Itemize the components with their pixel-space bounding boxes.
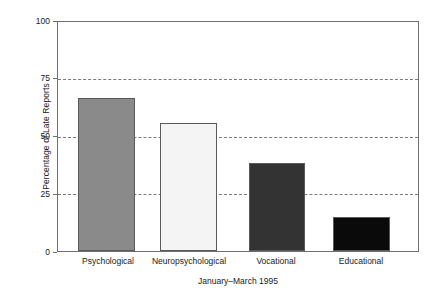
y-tick-label-0: 0 [28,248,50,257]
y-tick-mark-0 [53,252,57,253]
gridline-75 [58,79,418,80]
bar-educational[interactable] [333,217,390,251]
bar-vocational[interactable] [249,163,305,251]
y-tick-label-75: 75 [28,74,50,83]
bar-neuropsychological[interactable] [160,123,217,251]
y-tick-label-50: 50 [28,132,50,141]
category-label-educational: Educational [301,256,421,266]
y-tick-label-100: 100 [28,17,50,26]
bar-chart: Percentage of Late Reports 100 75 50 25 … [0,0,435,304]
bar-psychological[interactable] [78,98,135,251]
y-tick-label-25: 25 [28,190,50,199]
plot-area [57,21,419,252]
x-axis-title: January–March 1995 [57,276,419,286]
